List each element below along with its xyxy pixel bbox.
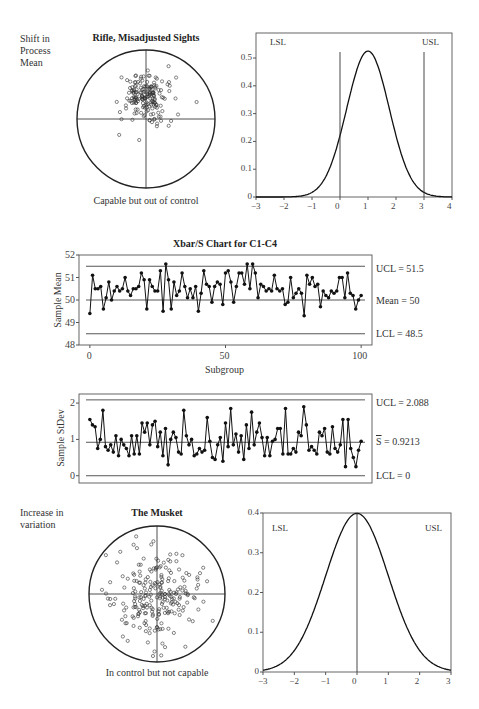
- s-chart-data-point: [106, 449, 110, 453]
- s-chart-data-point: [93, 425, 97, 429]
- shot-marker: [164, 566, 167, 569]
- s-chart-data-point: [179, 452, 183, 456]
- s-chart-data-point: [164, 427, 168, 431]
- shot-marker: [115, 561, 118, 564]
- s-chart-data-point: [216, 443, 220, 447]
- shot-marker: [135, 579, 138, 582]
- s-chart-data-point: [357, 449, 361, 453]
- shot-marker: [115, 100, 118, 103]
- s-chart-data-point: [289, 452, 293, 456]
- shot-marker: [125, 79, 128, 82]
- xbar-data-point: [254, 271, 258, 275]
- shot-marker: [202, 600, 205, 603]
- s-chart-data-point: [98, 438, 102, 442]
- shot-marker: [109, 581, 112, 584]
- xbar-data-point: [169, 307, 173, 311]
- xbar-data-point: [251, 262, 255, 266]
- xbar-data-point: [99, 285, 103, 289]
- shot-marker: [106, 597, 109, 600]
- xbar-mean-label: Mean = 50: [376, 295, 419, 306]
- target-caption-musket: In control but not capable: [97, 667, 217, 678]
- xbar-xtick-label: 100: [352, 350, 367, 361]
- shot-marker: [135, 111, 138, 114]
- s-chart-data-point: [349, 447, 353, 451]
- s-chart-data-point: [341, 418, 345, 422]
- s-chart-data-point: [226, 445, 230, 449]
- s-chart-data-point: [242, 458, 246, 462]
- shot-marker: [132, 543, 135, 546]
- top-normal-density-curve: [256, 51, 452, 197]
- s-chart-data-point: [302, 405, 306, 409]
- xbar-lcl-label: LCL = 48.5: [376, 328, 423, 339]
- shot-marker: [120, 618, 123, 621]
- s-chart-data-point: [203, 449, 207, 453]
- xbar-data-point: [273, 273, 277, 277]
- top-normal-xtick-label: 2: [391, 201, 396, 211]
- top-normal-ytick-label: 0.2: [236, 135, 252, 145]
- side-label-variation: Increase in variation: [20, 507, 64, 531]
- shot-marker: [161, 642, 164, 645]
- shot-marker: [150, 543, 153, 546]
- bottom-normal-xtick-label: 3: [446, 676, 451, 686]
- shot-marker: [108, 604, 111, 607]
- shot-marker: [149, 580, 152, 583]
- s-chart-data-point: [312, 449, 316, 453]
- s-chart-data-point: [156, 445, 160, 449]
- xbar-data-point: [327, 296, 331, 300]
- shot-marker: [182, 606, 185, 609]
- shot-marker: [195, 587, 198, 590]
- s-chart-data-point: [96, 447, 100, 451]
- shot-marker: [151, 654, 154, 657]
- s-chart-data-point: [130, 434, 134, 438]
- xbar-data-point: [123, 276, 127, 280]
- shot-marker: [126, 639, 129, 642]
- shot-marker: [178, 613, 181, 616]
- xbar-data-point: [180, 271, 184, 275]
- xbar-data-point: [183, 285, 187, 289]
- s-chart-data-point: [213, 458, 217, 462]
- xbar-data-point: [346, 271, 350, 275]
- s-chart-data-point: [281, 452, 285, 456]
- xbar-data-point: [256, 296, 260, 300]
- xbar-data-point: [115, 285, 119, 289]
- xbar-xtick-label: 0: [87, 350, 92, 361]
- s-chart-ytick-label: 2: [61, 397, 75, 408]
- s-chart-data-point: [297, 430, 301, 434]
- shot-marker: [153, 629, 156, 632]
- shot-marker: [169, 553, 172, 556]
- shot-marker: [114, 597, 117, 600]
- shot-marker: [128, 86, 131, 89]
- xbar-data-point: [262, 285, 266, 289]
- bottom-normal-ytick-label: 0.2: [243, 587, 259, 597]
- shot-marker: [174, 97, 177, 100]
- xbar-data-point: [126, 289, 130, 293]
- xbar-data-point: [300, 291, 304, 295]
- shot-marker: [154, 587, 157, 590]
- xbar-data-point: [229, 280, 233, 284]
- xbar-data-point: [311, 276, 315, 280]
- xbar-data-point: [289, 276, 293, 280]
- shot-marker: [104, 554, 107, 557]
- shot-marker: [143, 587, 146, 590]
- shot-marker: [161, 109, 164, 112]
- s-chart-data-point: [117, 454, 121, 458]
- shot-marker: [160, 654, 163, 657]
- s-chart-data-point: [190, 438, 194, 442]
- shot-marker: [169, 119, 172, 122]
- s-chart-data-point: [338, 443, 342, 447]
- shot-marker: [135, 535, 138, 538]
- top-normal-ytick-label: 0.5: [236, 52, 252, 62]
- s-chart-data-point: [250, 410, 254, 414]
- xbar-data-point: [232, 300, 236, 304]
- shot-marker: [173, 579, 176, 582]
- shot-marker: [159, 104, 162, 107]
- shot-marker: [120, 76, 123, 79]
- xbar-data-point: [218, 282, 222, 286]
- top-normal-xtick-label: 1: [363, 201, 368, 211]
- shot-marker: [205, 580, 208, 583]
- xbar-data-point: [104, 296, 108, 300]
- chart-canvas: [0, 0, 479, 709]
- xbar-ytick-label: 52: [61, 249, 75, 260]
- shot-marker: [138, 626, 141, 629]
- shot-marker: [126, 577, 129, 580]
